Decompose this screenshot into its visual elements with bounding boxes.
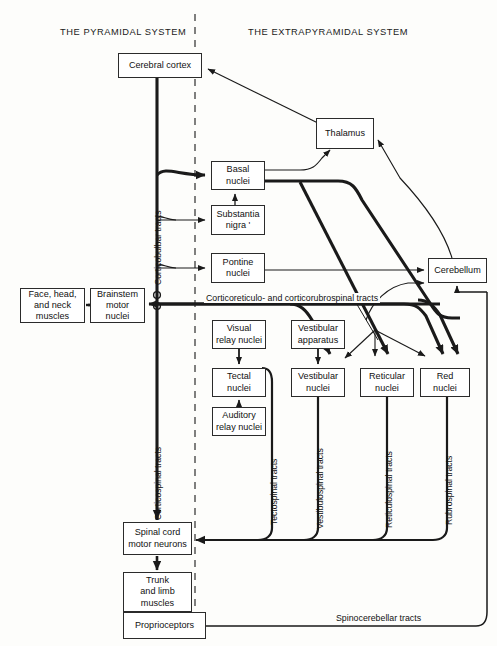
node-red-nuclei[interactable]: Red nuclei [420, 368, 470, 397]
tract-label-rubrospinal: Rubrospinal tracts [444, 456, 454, 525]
tract-label-spinocerebellar: Spinocerebellar tracts [334, 613, 423, 623]
node-vestibular-apparatus[interactable]: Vestibular apparatus [291, 320, 345, 349]
node-cerebellum[interactable]: Cerebellum [428, 258, 487, 283]
node-auditory-relay-nuclei[interactable]: Auditory relay nuclei [212, 407, 266, 436]
node-trunk-limb-muscles[interactable]: Trunk and limb muscles [123, 572, 192, 612]
node-spinal-cord-motor-neurons-label: Spinal cord motor neurons [128, 527, 187, 549]
node-substantia-nigra[interactable]: Substantia nigra ' [211, 205, 265, 235]
node-basal-nuclei-label: Basal nuclei [226, 164, 250, 186]
diagram-canvas: THE PYRAMIDAL SYSTEM THE EXTRAPYRAMIDAL … [0, 0, 497, 646]
node-tectal-nuclei[interactable]: Tectal nuclei [212, 368, 266, 397]
path-cortex-to-basal-nuclei [157, 171, 205, 175]
header-pyramidal-system: THE PYRAMIDAL SYSTEM [60, 27, 186, 37]
node-visual-relay-nuclei-label: Visual relay nuclei [216, 323, 262, 345]
node-reticular-nuclei[interactable]: Reticular nuclei [360, 368, 414, 397]
node-spinal-cord-motor-neurons[interactable]: Spinal cord motor neurons [123, 522, 192, 555]
node-red-nuclei-label: Red nuclei [433, 371, 457, 393]
node-vestibular-nuclei-label: Vestibular nuclei [298, 371, 338, 393]
header-extrapyramidal-system: THE EXTRAPYRAMIDAL SYSTEM [248, 27, 408, 37]
node-trunk-limb-muscles-label: Trunk and limb muscles [140, 575, 174, 609]
node-substantia-nigra-label: Substantia nigra ' [217, 209, 260, 231]
tract-label-corticobulbar: Corticobulbar tracts [153, 210, 163, 285]
node-proprioceptors[interactable]: Proprioceptors [123, 612, 206, 639]
node-auditory-relay-nuclei-label: Auditory relay nuclei [216, 410, 262, 432]
path-fan-to-vestibular-nuclei [345, 330, 375, 358]
node-pontine-nuclei-label: Pontine nuclei [223, 257, 254, 279]
tract-label-tectospinal: Tectospinal tracts [269, 459, 279, 525]
node-face-head-neck-muscles[interactable]: Face, head, and neck muscles [20, 288, 85, 323]
node-reticular-nuclei-label: Reticular nuclei [369, 371, 405, 393]
node-basal-nuclei[interactable]: Basal nuclei [211, 161, 265, 190]
node-visual-relay-nuclei[interactable]: Visual relay nuclei [212, 320, 266, 349]
node-pontine-nuclei[interactable]: Pontine nuclei [211, 253, 265, 283]
tract-label-corticospinal: Corticospinal tracts [153, 447, 163, 520]
node-cerebral-cortex[interactable]: Cerebral cortex [118, 53, 202, 78]
path-basal-nuclei-to-thalamus [265, 150, 330, 170]
path-thalamus-to-cortex [208, 69, 322, 125]
node-cerebral-cortex-label: Cerebral cortex [129, 60, 191, 71]
tract-label-reticulospinal: Reticulospinal tracts [384, 451, 394, 528]
node-tectal-nuclei-label: Tectal nuclei [227, 371, 251, 393]
node-vestibular-apparatus-label: Vestibular apparatus [298, 323, 338, 345]
node-vestibular-nuclei[interactable]: Vestibular nuclei [291, 368, 345, 397]
node-thalamus-label: Thalamus [325, 128, 365, 139]
node-thalamus[interactable]: Thalamus [316, 118, 374, 149]
tract-label-vestibulospinal: Vestibulospinal tracts [315, 448, 325, 529]
node-face-head-neck-muscles-label: Face, head, and neck muscles [28, 289, 76, 323]
node-cerebellum-label: Cerebellum [434, 265, 481, 276]
node-proprioceptors-label: Proprioceptors [135, 620, 194, 631]
node-brainstem-motor-nuclei[interactable]: Brainstem motor nuclei [90, 288, 145, 323]
node-brainstem-motor-nuclei-label: Brainstem motor nuclei [97, 289, 138, 323]
tract-label-corticoreticulo-corticorubrospinal: Corticoreticulo- and corticorubrospinal … [204, 293, 380, 303]
